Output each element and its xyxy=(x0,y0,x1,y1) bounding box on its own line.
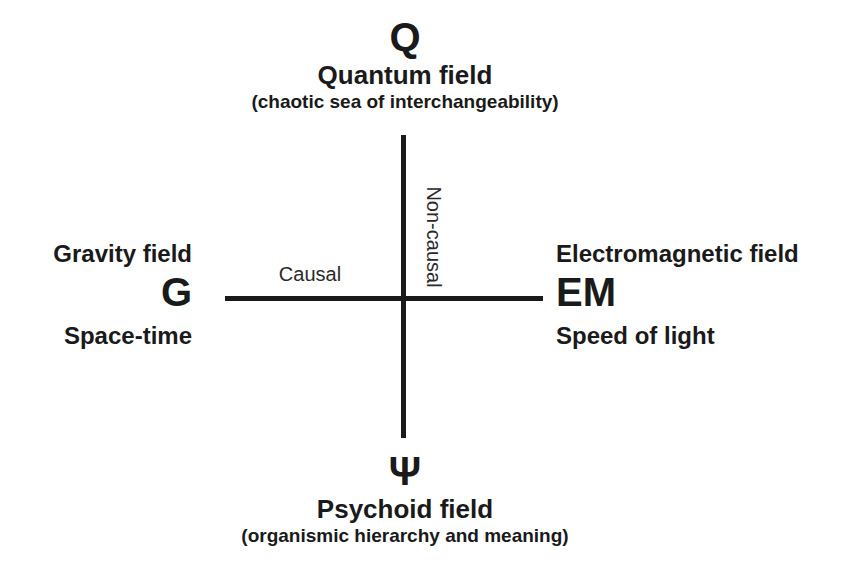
non-causal-axis-label: Non-causal xyxy=(422,186,445,287)
psychoid-field-subtitle: (organismic hierarchy and meaning) xyxy=(241,524,568,548)
causal-axis-label: Causal xyxy=(279,263,341,286)
electromagnetic-field-node: Electromagnetic field EM Speed of light xyxy=(556,240,799,350)
gravity-field-title: Gravity field xyxy=(53,240,192,268)
quantum-field-title: Quantum field xyxy=(251,60,558,90)
gravity-field-symbol: G xyxy=(53,268,192,316)
quantum-field-symbol: Q xyxy=(251,14,558,60)
electromagnetic-field-symbol: EM xyxy=(556,268,799,316)
vertical-axis-line xyxy=(401,135,406,438)
electromagnetic-field-subtitle: Speed of light xyxy=(556,322,799,350)
electromagnetic-field-title: Electromagnetic field xyxy=(556,240,799,268)
psychoid-field-symbol: Ψ xyxy=(241,448,568,494)
psychoid-field-node: Ψ Psychoid field (organismic hierarchy a… xyxy=(241,448,568,548)
four-fields-diagram: Causal Non-causal Q Quantum field (chaot… xyxy=(0,0,858,577)
quantum-field-subtitle: (chaotic sea of interchangeability) xyxy=(251,90,558,114)
horizontal-axis-line xyxy=(225,296,543,301)
quantum-field-node: Q Quantum field (chaotic sea of intercha… xyxy=(251,14,558,114)
gravity-field-node: Gravity field G Space-time xyxy=(53,240,192,350)
psychoid-field-title: Psychoid field xyxy=(241,494,568,524)
gravity-field-subtitle: Space-time xyxy=(53,322,192,350)
